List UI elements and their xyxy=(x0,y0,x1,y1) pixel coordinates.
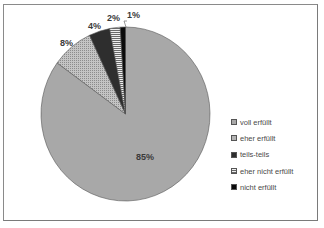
leader-line-nicht-erfuellt xyxy=(124,21,127,27)
slice-label-nicht-erfuellt: 1% xyxy=(127,10,140,20)
legend-item-eher-erfuellt: eher erfüllt xyxy=(231,130,293,146)
legend-label: eher erfüllt xyxy=(240,134,275,143)
legend-label: voll erfüllt xyxy=(240,118,272,127)
legend-item-voll-erfuellt: voll erfüllt xyxy=(231,114,293,130)
pie-slices xyxy=(41,27,210,201)
legend-swatch-icon xyxy=(231,135,237,141)
legend-label: nicht erfüllt xyxy=(240,183,276,192)
legend-swatch-icon xyxy=(231,168,237,174)
slice-label-eher-erfuellt: 8% xyxy=(60,38,73,48)
legend: voll erfüllt eher erfüllt teils-teils eh… xyxy=(231,114,293,195)
legend-swatch-icon xyxy=(231,152,237,158)
legend-swatch-icon xyxy=(231,184,237,190)
legend-item-nicht-erfuellt: nicht erfüllt xyxy=(231,179,293,195)
slice-label-eher-nicht-erfuellt: 2% xyxy=(107,13,120,23)
slice-label-voll-erfuellt: 85% xyxy=(136,152,154,162)
legend-item-teils-teils: teils-teils xyxy=(231,147,293,163)
legend-label: teils-teils xyxy=(240,150,269,159)
slice-label-teils-teils: 4% xyxy=(88,21,101,31)
legend-swatch-icon xyxy=(231,119,237,125)
legend-item-eher-nicht-erfuellt: eher nicht erfüllt xyxy=(231,163,293,179)
legend-label: eher nicht erfüllt xyxy=(240,167,293,176)
